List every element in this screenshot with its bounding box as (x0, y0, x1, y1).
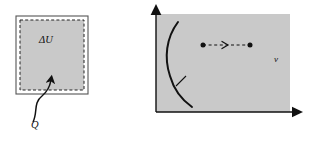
state-point-1 (201, 43, 206, 48)
uv-panel: v u 1 2 Saturation line (140, 0, 310, 143)
system-panel: ΔU Q (0, 0, 140, 143)
heat-label: Q (31, 120, 39, 131)
system-panel-graphics (0, 0, 140, 143)
internal-energy-label: ΔU (39, 35, 53, 46)
plot-area (156, 14, 290, 112)
thermodynamics-figure: ΔU Q (0, 0, 310, 143)
system-inner-dashed-boundary (20, 20, 84, 90)
uv-panel-graphics (140, 0, 310, 143)
y-axis-label: v (274, 55, 278, 64)
state-point-2 (248, 43, 253, 48)
